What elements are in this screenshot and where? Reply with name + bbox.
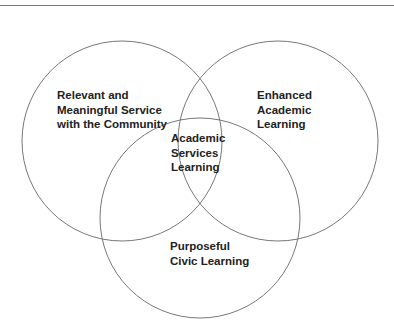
label-community: Relevant and Meaningful Service with the… — [57, 88, 167, 132]
label-line: Meaningful Service — [57, 103, 167, 118]
label-civic: Purposeful Civic Learning — [170, 239, 249, 268]
label-line: with the Community — [57, 117, 167, 132]
label-line: Academic — [171, 131, 225, 146]
label-line: Enhanced — [257, 88, 312, 103]
label-line: Learning — [257, 117, 312, 132]
label-line: Learning — [171, 160, 225, 175]
label-line: Relevant and — [57, 88, 167, 103]
label-center: Academic Services Learning — [171, 131, 225, 175]
label-line: Services — [171, 146, 225, 161]
label-line: Purposeful — [170, 239, 249, 254]
label-line: Civic Learning — [170, 254, 249, 269]
label-line: Academic — [257, 103, 312, 118]
label-academic: Enhanced Academic Learning — [257, 88, 312, 132]
